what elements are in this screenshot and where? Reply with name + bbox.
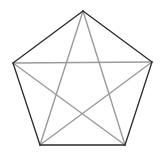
diagonal-line-BE [13,62,152,63]
diagonal-line-AD [40,11,83,145]
pentagon-star-figure [0,0,161,158]
edge-line-DE [13,63,40,145]
diagonal-line-CE [13,63,125,145]
diagonal-line-BD [40,62,152,145]
diagonal-line-AC [83,11,125,145]
edge-line-AB [83,11,152,62]
edge-line-BC [125,62,152,145]
diagram-canvas [0,0,161,158]
edge-line-EA [13,11,83,63]
